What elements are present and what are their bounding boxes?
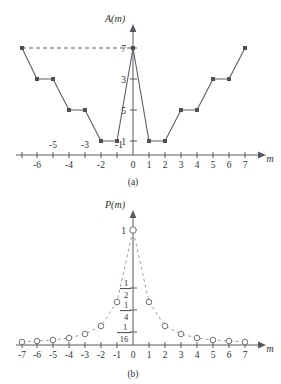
panel-b-y-axis-label: P(m) [104, 199, 126, 211]
panel-b-y-tick-one-half-numerator: 1 [124, 278, 128, 288]
panel-b-y-tick-one-sixteenth: 1 16 [117, 322, 131, 344]
panel-a-caption: (a) [128, 177, 139, 188]
panel-b: P(m) 1 1 2 1 4 1 16 -7 -6 [16, 199, 274, 380]
panel-a-x-tick--6: -6 [33, 160, 41, 170]
panel-b-x-tick--5: -5 [49, 350, 57, 360]
panel-a-x-tick-0: 0 [131, 160, 136, 170]
panel-b-y-tick-one-sixteenth-denominator: 16 [120, 334, 129, 344]
panel-b-x-tick--1: -1 [113, 350, 121, 360]
panel-a-x-tick-6: 6 [227, 160, 232, 170]
panel-b-x-tick--4: -4 [65, 350, 73, 360]
panel-b-x-tick-4: 4 [195, 350, 200, 360]
panel-b-x-tick-6: 6 [227, 350, 232, 360]
panel-a-x-tick-2: 2 [163, 160, 168, 170]
figure-container: A(m) 7 5 3 1 -6 -4 -2 0 1 2 3 4 5 6 7 -5… [0, 0, 281, 384]
panel-a-x-axis-label: m [266, 153, 273, 164]
panel-a-x-tick-3: 3 [179, 160, 184, 170]
panel-b-x-tick-0: 0 [131, 350, 136, 360]
panel-a-x-tick--4: -4 [65, 160, 73, 170]
panel-a-x-tick--3: -3 [81, 140, 89, 150]
panel-b-caption: (b) [127, 369, 138, 380]
panel-b-y-tick-one-half: 1 2 [120, 278, 131, 300]
panel-a-x-tick--1: -1 [115, 140, 123, 150]
panel-b-x-axis-arrowhead [258, 342, 266, 349]
panel-a-y-tick-7: 7 [121, 44, 126, 54]
panel-b-y-tick-1: 1 [121, 226, 126, 236]
panel-b-x-tick--6: -6 [33, 350, 41, 360]
panel-b-y-tick-one-sixteenth-numerator: 1 [123, 322, 127, 332]
panel-a-y-tick-3: 3 [121, 75, 126, 85]
panel-b-x-tick--2: -2 [97, 350, 105, 360]
panel-a-y-tick-5: 5 [121, 106, 126, 116]
panel-a-x-axis-arrowhead [258, 152, 266, 159]
panel-b-y-tick-one-quarter: 1 4 [120, 300, 131, 322]
panel-b-y-tick-one-half-denominator: 2 [124, 290, 128, 300]
panel-b-x-tick-2: 2 [163, 350, 168, 360]
panel-b-x-tick-5: 5 [211, 350, 216, 360]
panel-b-x-tick--7: -7 [18, 350, 26, 360]
panel-a: A(m) 7 5 3 1 -6 -4 -2 0 1 2 3 4 5 6 7 -5… [16, 13, 274, 188]
panel-a-x-tick--5: -5 [49, 140, 57, 150]
panel-a-y-axis-arrowhead [130, 24, 137, 32]
panel-a-x-tick--2: -2 [97, 160, 105, 170]
panel-a-y-axis-label: A(m) [104, 13, 126, 25]
panel-a-x-tick-1: 1 [147, 160, 152, 170]
panel-b-x-axis-label: m [266, 343, 273, 354]
panel-a-x-tick-7: 7 [243, 160, 248, 170]
figure-svg: A(m) 7 5 3 1 -6 -4 -2 0 1 2 3 4 5 6 7 -5… [0, 0, 281, 384]
panel-b-x-tick-1: 1 [147, 350, 152, 360]
panel-b-x-tick--3: -3 [81, 350, 89, 360]
panel-a-x-tick-4: 4 [195, 160, 200, 170]
panel-b-y-axis-arrowhead [130, 210, 137, 218]
panel-b-x-tick-7: 7 [243, 350, 248, 360]
panel-b-y-tick-one-quarter-denominator: 4 [124, 312, 129, 322]
panel-a-x-tick-5: 5 [211, 160, 216, 170]
panel-b-y-tick-one-quarter-numerator: 1 [124, 300, 128, 310]
panel-b-x-tick-3: 3 [179, 350, 184, 360]
